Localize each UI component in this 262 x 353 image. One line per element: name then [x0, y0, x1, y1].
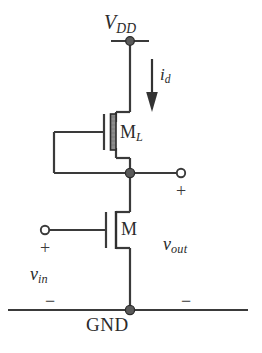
output-voltage-label: vout [163, 235, 187, 256]
input-voltage-subscript: in [38, 272, 48, 286]
output-plus-sign: + [176, 182, 186, 200]
input-voltage-base: v [30, 264, 38, 284]
input-terminal[interactable] [41, 226, 49, 234]
output-voltage-base: v [163, 234, 171, 254]
supply-voltage-base: V [104, 11, 116, 33]
load-transistor-subscript: L [136, 130, 143, 144]
circuit-diagram: VDD id ML M vout vin GND + − + − [0, 0, 262, 353]
drain-current-arrow-head [146, 92, 158, 112]
output-terminal[interactable] [177, 169, 185, 177]
input-minus-sign: − [45, 292, 55, 310]
output-minus-sign: − [181, 292, 191, 310]
vdd-node [126, 37, 135, 46]
drive-transistor-base: M [121, 219, 137, 239]
input-plus-sign: + [40, 239, 50, 257]
ground-label: GND [86, 315, 129, 334]
supply-voltage-subscript: DD [116, 21, 136, 36]
load-transistor-base: M [120, 122, 136, 142]
input-voltage-label: vin [30, 265, 48, 286]
circuit-schematic-canvas [0, 0, 262, 353]
load-transistor-channel-bar [111, 114, 117, 150]
load-transistor-label: ML [120, 123, 143, 144]
drain-current-label: id [160, 66, 171, 86]
drain-current-subscript: d [165, 73, 171, 86]
output-node [125, 168, 134, 177]
output-voltage-subscript: out [171, 242, 187, 256]
drive-transistor-label: M [121, 220, 137, 241]
supply-voltage-label: VDD [104, 12, 136, 35]
